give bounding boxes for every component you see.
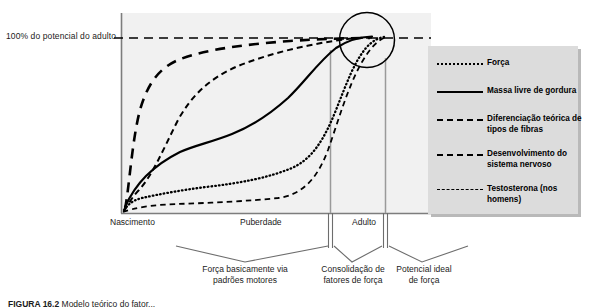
- chart-legend: Força Massa livre de gordura Diferenciaç…: [428, 46, 578, 214]
- figure-root: 100% do potencial do adulto Nascimento P…: [0, 0, 602, 308]
- legend-label-testosterona: Testosterona (nos homens): [487, 184, 583, 205]
- bracket-connectors: [176, 213, 468, 262]
- bracket-caption-motor-patterns: Força basicamente via padrões motores: [186, 264, 304, 285]
- legend-label-sistema-nervoso: Desenvolvimento do sistema nervoso: [487, 149, 583, 170]
- legend-label-diferenciacao-fibras: Diferenciação teórica de tipos de fibras: [487, 114, 583, 135]
- legend-label-forca: Força: [487, 58, 583, 69]
- figure-caption: FIGURA 16.2 Modelo teórico do fator...: [8, 299, 155, 308]
- legend-swatch-dashed-medium-icon: [437, 185, 483, 195]
- legend-swatch-solid-icon: [437, 87, 483, 97]
- x-tick-adulto: Adulto: [352, 217, 376, 227]
- bracket-caption-ideal-potential: Potencial ideal de força: [392, 264, 456, 285]
- legend-item-diferenciacao-fibras: Diferenciação teórica de tipos de fibras: [437, 114, 583, 135]
- legend-swatch-dashed-large-icon: [437, 150, 483, 160]
- legend-item-sistema-nervoso: Desenvolvimento do sistema nervoso: [437, 149, 583, 170]
- figure-caption-text: Modelo teórico do fator...: [62, 299, 156, 308]
- bracket-caption-strength-factors: Consolidação de fatores de força: [316, 264, 390, 285]
- x-tick-puberdade: Puberdade: [240, 217, 282, 227]
- y-axis-label: 100% do potencial do adulto: [6, 31, 116, 41]
- legend-label-massa-livre-de-gordura: Massa livre de gordura: [487, 86, 583, 97]
- x-tick-nascimento: Nascimento: [110, 217, 155, 227]
- legend-item-forca: Força: [437, 58, 583, 69]
- legend-item-massa-livre-de-gordura: Massa livre de gordura: [437, 86, 583, 97]
- figure-caption-number: FIGURA 16.2: [8, 299, 59, 308]
- legend-swatch-dotted-icon: [437, 59, 483, 69]
- legend-swatch-dashed-small-icon: [437, 115, 483, 125]
- legend-item-testosterona: Testosterona (nos homens): [437, 184, 583, 205]
